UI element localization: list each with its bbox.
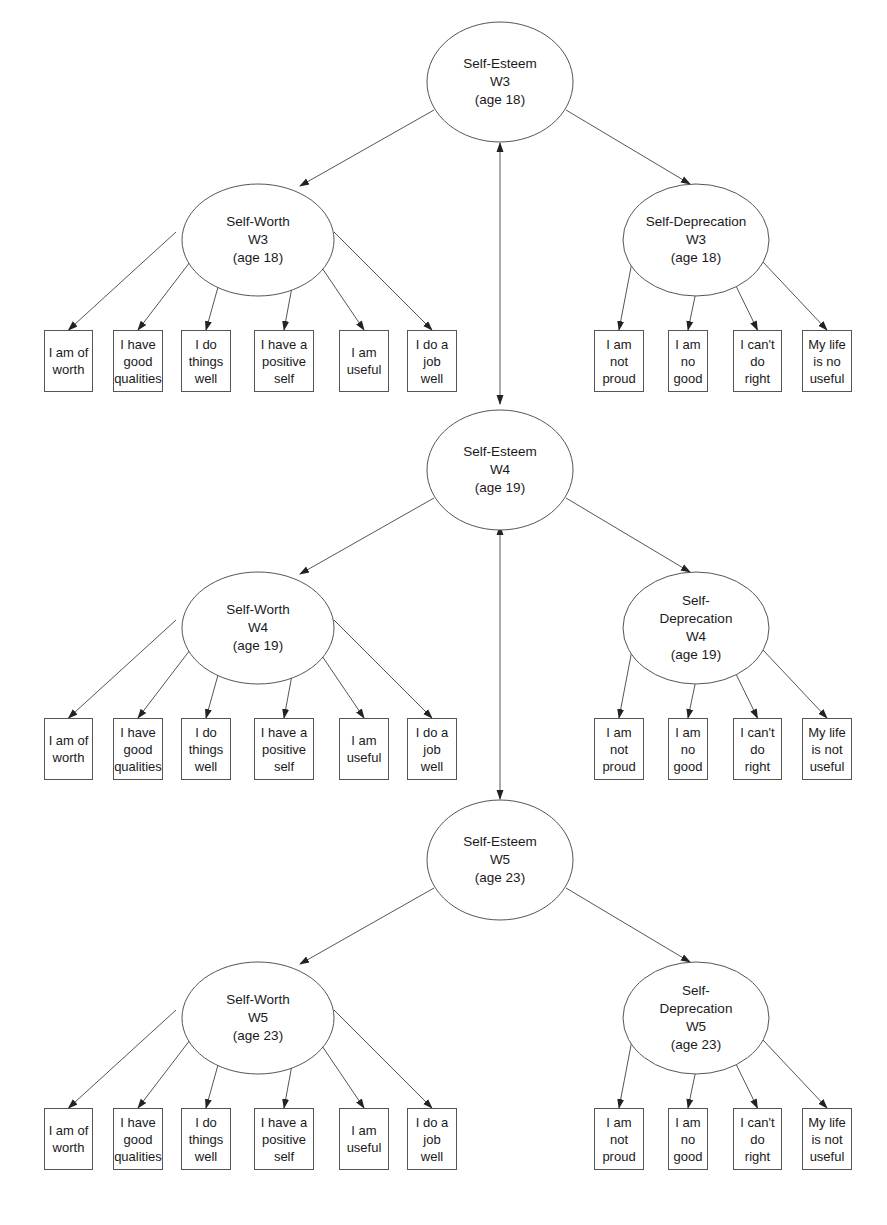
indicator-label-line: well [421, 1148, 443, 1165]
indicator-label-line: worth [53, 1139, 85, 1156]
edge-self-worth-indicator-w3 [69, 232, 177, 330]
indicator-label-line: I am [606, 1114, 631, 1131]
node-label-line: (age 23) [671, 1036, 721, 1054]
node-label-line: Self-Esteem [463, 55, 537, 73]
indicator-label-line: good [124, 1131, 153, 1148]
indicator-box-self-worth-w5: I havegoodqualities [113, 1108, 163, 1170]
indicator-label-line: I have [120, 1114, 155, 1131]
indicator-label-line: things [189, 353, 224, 370]
indicator-label-line: qualities [114, 370, 162, 387]
indicator-label-line: job [423, 1131, 440, 1148]
node-label-line: Self-Worth [226, 213, 290, 231]
indicator-label-line: well [421, 758, 443, 775]
indicator-label-line: I do [195, 724, 217, 741]
indicator-label-line: I am [675, 724, 700, 741]
indicator-label-line: I do a [416, 336, 449, 353]
indicator-label-line: well [195, 1148, 217, 1165]
indicator-label-line: not [610, 1131, 628, 1148]
indicator-label-line: right [745, 758, 770, 775]
node-label-line: (age 23) [475, 869, 525, 887]
self-esteem-path-diagram: I am ofworthI havegoodqualitiesI dothing… [0, 0, 887, 1225]
indicator-box-self-worth-w3: I am ofworth [44, 330, 93, 392]
edge-self-esteem-to-self-worth-w3 [300, 110, 434, 186]
indicator-label-line: self [274, 370, 294, 387]
indicator-label-line: I am [351, 1122, 376, 1139]
indicator-label-line: My life [808, 1114, 846, 1131]
indicator-label-line: I am of [49, 732, 89, 749]
indicator-label-line: right [745, 370, 770, 387]
indicator-label-line: positive [262, 741, 306, 758]
indicator-label-line: My life [808, 724, 846, 741]
indicator-label-line: qualities [114, 758, 162, 775]
indicator-box-self-deprecation-w3: I can'tdoright [733, 330, 782, 392]
indicator-label-line: no [681, 1131, 695, 1148]
indicator-label-line: good [674, 1148, 703, 1165]
indicator-box-self-worth-w3: I havegoodqualities [113, 330, 163, 392]
indicator-label-line: I do a [416, 724, 449, 741]
node-label-line: Self-Deprecation [646, 213, 747, 231]
edge-self-esteem-to-self-worth-w5 [300, 888, 434, 964]
indicator-label-line: positive [262, 353, 306, 370]
indicator-label-line: do [750, 741, 764, 758]
indicator-label-line: useful [347, 749, 382, 766]
label-self-deprecation-w3: Self-DeprecationW3(age 18) [623, 184, 769, 296]
indicator-label-line: I can't [740, 336, 774, 353]
indicator-label-line: useful [810, 370, 845, 387]
indicator-label-line: worth [53, 749, 85, 766]
indicator-label-line: no [681, 741, 695, 758]
indicator-label-line: useful [810, 1148, 845, 1165]
indicator-box-self-deprecation-w5: I can'tdoright [733, 1108, 782, 1170]
edge-self-worth-indicator-w3 [334, 232, 432, 330]
indicator-label-line: I have a [261, 1114, 307, 1131]
indicator-box-self-worth-w3: I do ajobwell [407, 330, 457, 392]
label-self-esteem-w4: Self-EsteemW4(age 19) [427, 410, 573, 530]
node-label-line: W4 [686, 628, 706, 646]
indicator-box-self-worth-w4: I havegoodqualities [113, 718, 163, 780]
label-self-deprecation-w5: Self-DeprecationW5(age 23) [623, 962, 769, 1074]
indicator-label-line: I am [675, 336, 700, 353]
indicator-box-self-worth-w4: I amuseful [339, 718, 389, 780]
node-label-line: Deprecation [660, 1000, 733, 1018]
indicator-label-line: I am of [49, 344, 89, 361]
indicator-label-line: I do [195, 336, 217, 353]
node-label-line: W5 [686, 1018, 706, 1036]
node-label-line: Self-Esteem [463, 833, 537, 851]
indicator-label-line: useful [347, 1139, 382, 1156]
indicator-label-line: I have [120, 724, 155, 741]
indicator-label-line: worth [53, 361, 85, 378]
indicator-label-line: I am [675, 1114, 700, 1131]
indicator-label-line: good [124, 353, 153, 370]
indicator-label-line: self [274, 1148, 294, 1165]
indicator-box-self-deprecation-w5: I amnotproud [594, 1108, 644, 1170]
indicator-label-line: useful [347, 361, 382, 378]
indicator-label-line: I have a [261, 336, 307, 353]
indicator-label-line: job [423, 353, 440, 370]
indicator-label-line: things [189, 741, 224, 758]
indicator-label-line: no [681, 353, 695, 370]
indicator-label-line: right [745, 1148, 770, 1165]
indicator-box-self-deprecation-w5: My lifeis notuseful [802, 1108, 852, 1170]
node-label-line: W5 [490, 851, 510, 869]
node-label-line: W4 [248, 619, 268, 637]
indicator-label-line: I am [351, 344, 376, 361]
label-self-worth-w3: Self-WorthW3(age 18) [182, 184, 334, 296]
indicator-label-line: not [610, 353, 628, 370]
indicator-label-line: good [674, 758, 703, 775]
indicator-label-line: I am [351, 732, 376, 749]
indicator-label-line: not [610, 741, 628, 758]
node-label-line: (age 19) [475, 479, 525, 497]
indicator-box-self-worth-w5: I do ajobwell [407, 1108, 457, 1170]
node-label-line: (age 18) [671, 249, 721, 267]
label-self-worth-w4: Self-WorthW4(age 19) [182, 572, 334, 684]
edge-self-esteem-to-self-deprecation-w4 [566, 498, 690, 572]
edge-self-deprecation-indicator-w4 [763, 650, 827, 718]
indicator-label-line: I am [606, 336, 631, 353]
edge-self-worth-indicator-w4 [334, 620, 432, 718]
indicator-box-self-worth-w3: I dothingswell [181, 330, 231, 392]
indicator-box-self-worth-w3: I amuseful [339, 330, 389, 392]
edge-self-esteem-to-self-deprecation-w3 [566, 110, 690, 184]
node-label-line: (age 19) [671, 646, 721, 664]
label-self-worth-w5: Self-WorthW5(age 23) [182, 962, 334, 1074]
indicator-box-self-deprecation-w3: I amnotproud [594, 330, 644, 392]
node-label-line: W3 [490, 73, 510, 91]
